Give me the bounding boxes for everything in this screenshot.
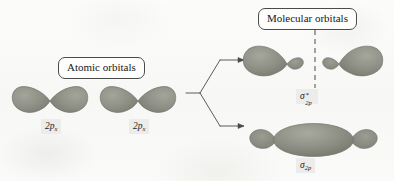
atomic-orbital-2px-left [12,84,88,118]
label-base: σ [300,91,305,101]
callout-molecular-orbitals: Molecular orbitals [258,8,357,30]
label-base: 2p [133,121,143,131]
sigma-star-left-minor-lobe [287,58,303,69]
molecular-orbital-label-sigma-star: σ*2p [296,89,318,104]
orbital-diagram-figure: Atomic orbitals 2px [0,0,394,181]
atomic-orbital-label-left: 2px [41,119,61,134]
atomic-orbital-label-right: 2px [129,119,149,134]
label-base: 2p [45,121,55,131]
label-subscript: 2p [305,100,312,107]
sigma-central-lobe [274,124,354,157]
sigma-star-left-major-lobe [243,46,287,76]
molecular-orbital-sigma-2p [246,120,381,160]
label-subscript: x [55,125,58,132]
sigma-left-end-lobe [250,129,276,148]
nodal-plane-dashed-line [313,30,317,88]
arrowhead-lower [238,123,244,128]
label-superscript: * [305,92,309,99]
sigma-star-right-minor-lobe [323,58,339,69]
label-subscript: x [143,125,146,132]
sigma-right-end-lobe [351,129,377,148]
molecular-orbital-label-sigma: σ2p [296,158,315,173]
sigma-star-right-major-lobe [339,46,383,76]
label-base: σ [300,160,305,170]
label-subscript: 2p [305,164,312,171]
atomic-orbital-2px-right [100,84,176,118]
callout-atomic-orbitals: Atomic orbitals [58,57,145,79]
